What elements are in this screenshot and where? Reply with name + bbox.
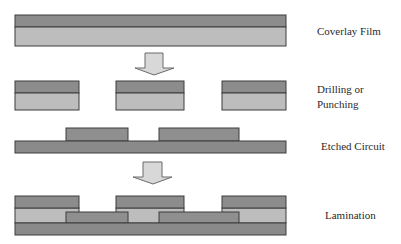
label-drilling-line1: Drilling or [317,82,364,96]
coverlay-piece-middle-top [116,81,184,93]
down-arrow-icon [133,162,172,184]
coverlay-film-graphic [15,15,286,46]
coverlay-polyimide-layer [15,15,286,27]
label-drilling-line2: Punching [317,97,359,111]
circuit-trace-left [66,128,128,141]
laminated-stack-graphic [15,196,286,235]
laminated-trace-right [159,212,239,223]
coverlay-piece-left-bottom [15,93,79,110]
laminated-coverlay-middle [116,196,184,208]
coverlay-piece-left-top [15,81,79,93]
circuit-trace-right [159,128,239,141]
coverlay-adhesive-layer [15,27,286,46]
drilled-coverlay-graphic [15,81,286,110]
laminated-coverlay-right [222,196,286,208]
laminated-coverlay-left [15,196,79,208]
coverlay-piece-middle-bottom [116,93,184,110]
down-arrow-icon [135,53,174,75]
label-coverlay-film: Coverlay Film [317,24,381,38]
label-etched-circuit: Etched Circuit [321,139,385,153]
laminated-substrate [15,223,286,235]
circuit-substrate [15,141,286,153]
coverlay-piece-right-top [222,81,286,93]
label-lamination: Lamination [325,208,376,222]
coverlay-piece-right-bottom [222,93,286,110]
laminated-trace-left [66,212,128,223]
etched-circuit-graphic [15,128,286,153]
